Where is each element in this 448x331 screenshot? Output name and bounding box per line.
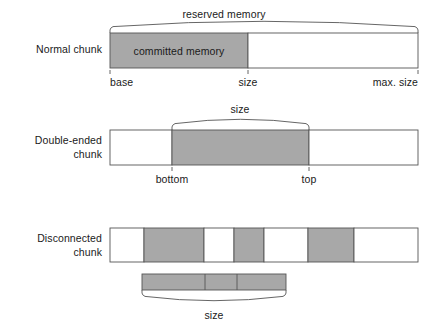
row-label-disconnected-chunk: Disconnected chunk [6, 232, 102, 259]
memory-chunk-diagram: Normal chunk Double-ended chunk Disconne… [0, 0, 448, 331]
double-ended-size-arc [172, 119, 309, 130]
reserved-memory-arc [110, 21, 418, 33]
double-ended-chunk-group [110, 119, 418, 171]
double-ended-in-use-segment [172, 130, 309, 165]
tick-label-base: base [110, 76, 133, 88]
tick-label-bottom: bottom [156, 173, 189, 185]
disconnected-gap-segment-4 [354, 228, 418, 262]
disconnected-gap-segment-2 [204, 228, 234, 262]
disconnected-used-segment-3 [308, 228, 354, 262]
disconnected-used-segment-2 [234, 228, 264, 262]
row-label-normal-chunk: Normal chunk [6, 43, 102, 57]
double-ended-above-top-segment [309, 130, 418, 165]
disconnected-gap-segment-3 [264, 228, 308, 262]
disconnected-compacted-bar [142, 274, 286, 290]
tick-label-size: size [238, 76, 257, 88]
reserved-memory-arc-label: reserved memory [164, 8, 284, 20]
tick-label-max-size: max. size [373, 76, 418, 88]
row-label-double-ended-chunk: Double-ended chunk [6, 134, 102, 161]
committed-memory-label: committed memory [110, 45, 248, 57]
double-ended-size-arc-label: size [180, 103, 300, 115]
disconnected-used-segment-1 [144, 228, 204, 262]
tick-label-top: top [302, 173, 317, 185]
normal-chunk-uncommitted-segment [248, 33, 418, 68]
disconnected-gap-segment-1 [110, 228, 144, 262]
disconnected-size-arc [142, 290, 286, 301]
disconnected-chunk-group [110, 228, 418, 301]
disconnected-size-arc-label: size [154, 309, 274, 321]
double-ended-below-bottom-segment [110, 130, 172, 165]
